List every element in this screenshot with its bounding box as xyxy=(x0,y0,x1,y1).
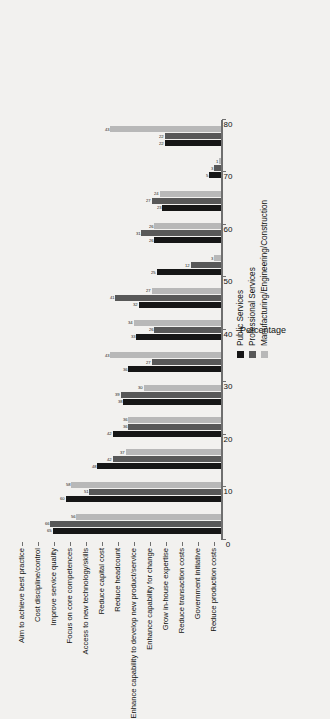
bar-value-label: 3 xyxy=(211,166,213,171)
bar: 58 xyxy=(71,482,222,488)
bar-value-label: 43 xyxy=(105,353,110,358)
category-label: Access to new technology/skills xyxy=(81,548,91,654)
legend: Public ServicesProfessional ServicesManu… xyxy=(236,200,272,358)
bar: 41 xyxy=(115,295,222,301)
bar: 31 xyxy=(141,230,222,236)
bar: 34 xyxy=(134,320,222,326)
bar-value-label: 27 xyxy=(146,288,151,293)
category-tick xyxy=(198,542,199,546)
bar-value-label: 22 xyxy=(159,141,164,146)
category-label: Enhance capability for change xyxy=(145,548,155,650)
bar: 66 xyxy=(50,521,222,527)
bar-group: 232724 xyxy=(14,185,222,217)
bar-value-label: 66 xyxy=(45,521,50,526)
bar-value-label: 30 xyxy=(138,385,143,390)
bar-value-label: 42 xyxy=(107,431,112,436)
bar-value-label: 51 xyxy=(84,489,89,494)
bar-value-label: 24 xyxy=(154,191,159,196)
legend-swatch xyxy=(249,351,256,358)
bar-group: 222243 xyxy=(14,120,222,152)
bar-value-label: 41 xyxy=(110,295,115,300)
bar: 39 xyxy=(121,392,222,398)
bar: 36 xyxy=(128,366,222,372)
bar-group: 484237 xyxy=(14,443,222,475)
bar: 26 xyxy=(154,327,222,333)
category-tick xyxy=(22,542,23,546)
legend-label: Public Services xyxy=(236,290,245,346)
bar: 22 xyxy=(165,133,222,139)
bar-value-label: 5 xyxy=(206,173,208,178)
value-axis-tick-label: 40 xyxy=(224,330,233,339)
bar: 36 xyxy=(128,424,222,430)
category-tick xyxy=(134,542,135,546)
bar-value-label: 31 xyxy=(136,231,141,236)
legend-swatch xyxy=(261,351,268,358)
legend-label: Professional Services xyxy=(248,267,257,346)
bar: 22 xyxy=(165,140,222,146)
bar-value-label: 26 xyxy=(149,224,154,229)
plot-area: 6566566051584842374236363839303627433326… xyxy=(14,120,222,540)
bar-groups: 6566566051584842374236363839303627433326… xyxy=(14,120,222,540)
bar: 27 xyxy=(152,198,222,204)
bar-value-label: 48 xyxy=(92,464,97,469)
bar: 25 xyxy=(157,269,222,275)
value-axis-tick-label: 80 xyxy=(224,120,233,129)
category-label: Cost discipline/control xyxy=(33,548,43,622)
bar-value-label: 38 xyxy=(118,399,123,404)
bar: 12 xyxy=(191,262,222,268)
bar-value-label: 36 xyxy=(123,417,128,422)
bar-value-label: 12 xyxy=(185,263,190,268)
category-tick xyxy=(86,542,87,546)
value-axis-tick-label: 50 xyxy=(224,278,233,287)
bar-value-label: 60 xyxy=(60,496,65,501)
bar-value-label: 34 xyxy=(128,320,133,325)
bar-value-label: 26 xyxy=(149,238,154,243)
value-axis-tick-label: 10 xyxy=(224,488,233,497)
bar-value-label: 32 xyxy=(133,302,138,307)
value-axis-tick-label: 60 xyxy=(224,225,233,234)
category-tick xyxy=(102,542,103,546)
category-tick xyxy=(54,542,55,546)
bar-value-label: 26 xyxy=(149,327,154,332)
bar: 48 xyxy=(97,463,222,469)
bar: 43 xyxy=(110,352,222,358)
bar-group: 25123 xyxy=(14,249,222,281)
category-tick xyxy=(166,542,167,546)
value-axis-tick-label: 70 xyxy=(224,173,233,182)
bar-value-label: 36 xyxy=(123,367,128,372)
bar-value-label: 3 xyxy=(211,256,213,261)
bar-value-label: 56 xyxy=(71,514,76,519)
legend-item: Manufacturing/Engineering/Construction xyxy=(260,200,269,358)
legend-label: Manufacturing/Engineering/Construction xyxy=(260,200,269,346)
category-label: Reduce transaction costs xyxy=(177,548,187,633)
bar: 27 xyxy=(152,288,222,294)
bar-value-label: 25 xyxy=(151,270,156,275)
category-label: Enhance capability to develop new produc… xyxy=(129,548,139,719)
category-label: Government initiative xyxy=(193,548,203,619)
value-axis-tick-label: 20 xyxy=(224,435,233,444)
category-tick xyxy=(150,542,151,546)
bar-value-label: 36 xyxy=(123,424,128,429)
legend-item: Professional Services xyxy=(248,200,257,358)
category-tick xyxy=(70,542,71,546)
legend-swatch xyxy=(237,351,244,358)
bar: 42 xyxy=(113,431,222,437)
category-axis: Aim to achieve best practiceCost discipl… xyxy=(14,542,222,658)
category-tick xyxy=(214,542,215,546)
bar-group: 423636 xyxy=(14,411,222,443)
bar-group: 362743 xyxy=(14,346,222,378)
bar: 33 xyxy=(136,334,222,340)
bar-value-label: 22 xyxy=(159,134,164,139)
category-label: Reduce production costs xyxy=(209,548,219,632)
category-label: Focus on core competences xyxy=(65,548,75,643)
bar: 65 xyxy=(53,528,222,534)
bar: 51 xyxy=(89,489,222,495)
category-tick xyxy=(118,542,119,546)
bar-value-label: 27 xyxy=(146,198,151,203)
bar: 23 xyxy=(162,205,222,211)
bar-group: 383930 xyxy=(14,378,222,410)
bar: 27 xyxy=(152,359,222,365)
category-tick xyxy=(182,542,183,546)
bar: 60 xyxy=(66,496,222,502)
category-label: Grow in-house expertise xyxy=(161,548,171,630)
